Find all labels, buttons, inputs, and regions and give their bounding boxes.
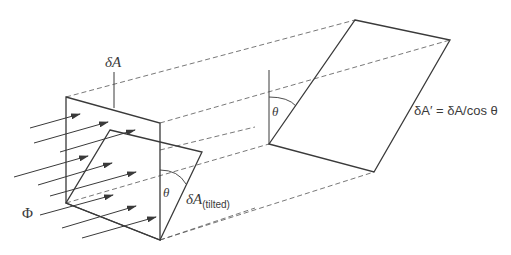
flux-label: Φ bbox=[22, 206, 33, 221]
relation-label: δA′ = δA/cos θ bbox=[414, 104, 498, 117]
upright-area-element bbox=[66, 97, 160, 240]
diagram-canvas bbox=[0, 0, 511, 255]
projected-area-element bbox=[269, 20, 450, 172]
flux-arrows bbox=[14, 114, 156, 238]
delta-a-tilted-sub: (tilted) bbox=[202, 199, 230, 210]
theta-label-left: θ bbox=[163, 186, 169, 199]
delta-a-label: δA bbox=[105, 55, 121, 70]
theta-arc-left bbox=[160, 170, 186, 184]
delta-a-tilted-label: δA(tilted) bbox=[186, 192, 230, 207]
theta-label-right: θ bbox=[272, 105, 278, 118]
projection-lines bbox=[66, 20, 450, 240]
flux-diagram: δA θ δA(tilted) Φ θ δA′ = δA/cos θ bbox=[0, 0, 511, 255]
delta-a-tilted-main: δA bbox=[186, 191, 202, 207]
